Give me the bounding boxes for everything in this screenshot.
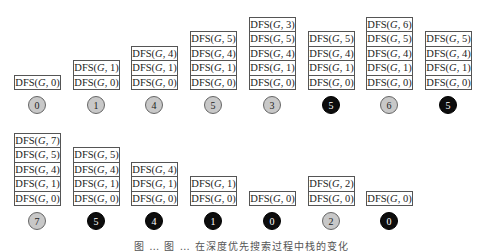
stack-frame: DFS(G, 4): [73, 162, 120, 178]
stack-frame: DFS(G, 1): [73, 60, 120, 76]
stack-frame: DFS(G, 5): [425, 31, 472, 47]
stack-frame: DFS(G, 0): [308, 75, 355, 91]
stack-frame: DFS(G, 3): [249, 17, 296, 33]
vertex-node: 5: [87, 212, 105, 230]
stack-frame: DFS(G, 0): [425, 75, 472, 91]
vertex-node: 1: [87, 96, 105, 114]
stack-frame: DFS(G, 1): [190, 60, 237, 76]
call-stack: DFS(G, 0): [366, 192, 413, 207]
vertex-node: 5: [204, 96, 222, 114]
call-stack: DFS(G, 0)DFS(G, 1)DFS(G, 4): [131, 47, 178, 91]
call-stack: DFS(G, 0)DFS(G, 1)DFS(G, 4): [131, 163, 178, 207]
stack-frame: DFS(G, 0): [14, 191, 61, 207]
vertex-node: 4: [145, 212, 163, 230]
vertex-node: 0: [380, 212, 398, 230]
stack-frame: DFS(G, 0): [190, 191, 237, 207]
vertex-node: 5: [322, 96, 340, 114]
call-stack: DFS(G, 0)DFS(G, 1)DFS(G, 4)DFS(G, 5): [190, 32, 237, 90]
vertex-node: 4: [145, 96, 163, 114]
stack-frame: DFS(G, 0): [366, 191, 413, 207]
stack-frame: DFS(G, 1): [249, 60, 296, 76]
call-stack: DFS(G, 0)DFS(G, 1)DFS(G, 4)DFS(G, 5): [425, 32, 472, 90]
stack-frame: DFS(G, 0): [14, 75, 61, 91]
stack-frame: DFS(G, 1): [366, 60, 413, 76]
call-stack: DFS(G, 0): [249, 192, 296, 207]
stack-frame: DFS(G, 1): [190, 176, 237, 192]
call-stack: DFS(G, 0)DFS(G, 1)DFS(G, 4)DFS(G, 5)DFS(…: [249, 18, 296, 91]
call-stack: DFS(G, 0)DFS(G, 1)DFS(G, 4)DFS(G, 5)DFS(…: [366, 18, 413, 91]
vertex-node: 0: [263, 212, 281, 230]
stack-frame: DFS(G, 0): [249, 75, 296, 91]
vertex-node: 7: [28, 212, 46, 230]
stack-frame: DFS(G, 1): [425, 60, 472, 76]
stack-frame: DFS(G, 4): [308, 46, 355, 62]
stack-frame: DFS(G, 0): [131, 75, 178, 91]
stack-frame: DFS(G, 4): [131, 46, 178, 62]
call-stack: DFS(G, 0)DFS(G, 2): [308, 177, 355, 206]
call-stack: DFS(G, 0)DFS(G, 1)DFS(G, 4)DFS(G, 5)DFS(…: [14, 134, 61, 207]
stack-frame: DFS(G, 7): [14, 133, 61, 149]
stack-frame: DFS(G, 4): [425, 46, 472, 62]
vertex-node: 2: [322, 212, 340, 230]
call-stack: DFS(G, 0)DFS(G, 1): [73, 61, 120, 90]
stack-frame: DFS(G, 5): [366, 31, 413, 47]
stack-frame: DFS(G, 1): [131, 176, 178, 192]
call-stack: DFS(G, 0): [14, 76, 61, 91]
stack-frame: DFS(G, 4): [366, 46, 413, 62]
stack-frame: DFS(G, 0): [73, 191, 120, 207]
stack-frame: DFS(G, 4): [131, 162, 178, 178]
stack-frame: DFS(G, 1): [308, 60, 355, 76]
stack-frame: DFS(G, 1): [73, 176, 120, 192]
stack-frame: DFS(G, 0): [249, 191, 296, 207]
vertex-node: 1: [204, 212, 222, 230]
stack-frame: DFS(G, 5): [14, 147, 61, 163]
stack-frame: DFS(G, 5): [308, 31, 355, 47]
stack-frame: DFS(G, 1): [14, 176, 61, 192]
stack-frame: DFS(G, 2): [308, 176, 355, 192]
figure-caption: 图 … 图 … 在深度优先搜索过程中栈的变化: [0, 238, 483, 251]
stack-frame: DFS(G, 5): [73, 147, 120, 163]
vertex-node: 0: [28, 96, 46, 114]
stack-frame: DFS(G, 0): [190, 75, 237, 91]
stack-frame: DFS(G, 0): [131, 191, 178, 207]
stack-frame: DFS(G, 5): [249, 31, 296, 47]
stack-frame: DFS(G, 5): [190, 31, 237, 47]
vertex-node: 3: [263, 96, 281, 114]
stack-frame: DFS(G, 4): [190, 46, 237, 62]
stack-frame: DFS(G, 4): [14, 162, 61, 178]
stack-frame: DFS(G, 0): [73, 75, 120, 91]
call-stack: DFS(G, 0)DFS(G, 1)DFS(G, 4)DFS(G, 5): [308, 32, 355, 90]
stack-frame: DFS(G, 6): [366, 17, 413, 33]
call-stack: DFS(G, 0)DFS(G, 1): [190, 177, 237, 206]
call-stack: DFS(G, 0)DFS(G, 1)DFS(G, 4)DFS(G, 5): [73, 148, 120, 206]
stack-frame: DFS(G, 0): [366, 75, 413, 91]
stack-frame: DFS(G, 1): [131, 60, 178, 76]
stack-frame: DFS(G, 0): [308, 191, 355, 207]
stack-frame: DFS(G, 4): [249, 46, 296, 62]
vertex-node: 5: [439, 96, 457, 114]
vertex-node: 6: [380, 96, 398, 114]
